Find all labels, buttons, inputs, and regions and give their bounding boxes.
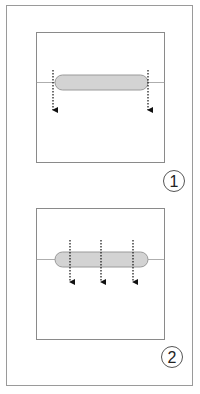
panel-1-box — [37, 33, 165, 163]
diagram: 1 2 — [0, 0, 200, 394]
panel-2: 2 — [37, 209, 183, 368]
panel-2-label: 2 — [168, 349, 177, 366]
panel-1-label: 1 — [170, 173, 179, 190]
panel-1-pill — [55, 75, 148, 90]
panel-1: 1 — [37, 33, 185, 192]
